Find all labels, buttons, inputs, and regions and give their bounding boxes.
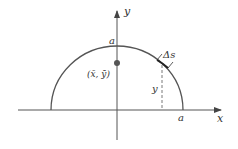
radius-top-label: a — [109, 35, 115, 46]
centroid-dot — [114, 60, 120, 66]
height-label: y — [151, 83, 158, 94]
diagram-canvas: y x a a (x̄, ȳ) Δs y — [0, 0, 238, 149]
x-axis-label: x — [217, 112, 224, 125]
radius-right-label: a — [178, 112, 184, 123]
semicircle-diagram: y x a a (x̄, ȳ) Δs y — [0, 0, 238, 149]
arc-element — [157, 60, 168, 68]
arc-element-tick-bottom — [168, 62, 173, 68]
arc-element-label: Δs — [162, 49, 175, 60]
arc-element-tick-top — [157, 54, 162, 60]
y-axis-label: y — [123, 5, 131, 18]
centroid-label: (x̄, ȳ) — [87, 69, 110, 79]
